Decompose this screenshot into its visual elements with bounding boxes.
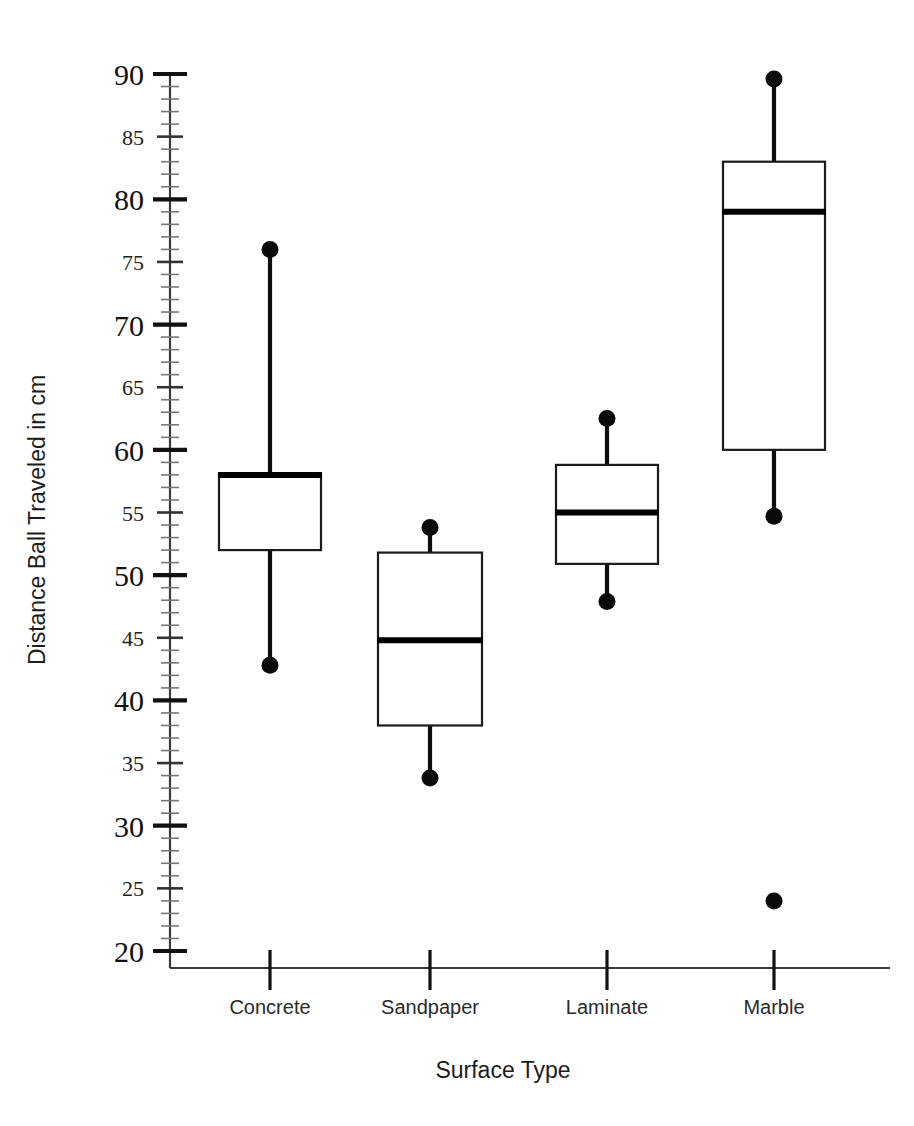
y-tick-label: 45 (122, 626, 144, 651)
box-iqr (219, 475, 321, 550)
chart-canvas: 202530354045505560657075808590 ConcreteS… (0, 0, 914, 1126)
box-plot-marble (722, 71, 826, 910)
y-tick-label: 90 (114, 58, 144, 91)
min-point (599, 593, 616, 610)
x-category-label-concrete: Concrete (229, 996, 310, 1018)
max-point (599, 410, 616, 427)
box-plot-series (218, 71, 826, 910)
max-point (262, 241, 279, 258)
y-tick-label: 80 (114, 183, 144, 216)
max-point (422, 519, 439, 536)
box-iqr (723, 162, 825, 450)
max-point (766, 71, 783, 88)
box-plot-laminate (555, 410, 659, 610)
y-tick-label: 75 (122, 250, 144, 275)
y-tick-label: 50 (114, 559, 144, 592)
x-axis-title: Surface Type (435, 1057, 570, 1083)
y-tick-label: 40 (114, 684, 144, 717)
min-point (766, 508, 783, 525)
box-plot-concrete (218, 241, 322, 674)
y-tick-label: 25 (122, 876, 144, 901)
y-tick-label: 70 (114, 309, 144, 342)
x-axis-category-labels: ConcreteSandpaperLaminateMarble (229, 996, 804, 1018)
y-tick-label: 85 (122, 125, 144, 150)
x-axis-category-ticks (270, 950, 774, 990)
y-tick-label: 60 (114, 434, 144, 467)
min-point (262, 657, 279, 674)
y-tick-label: 20 (114, 935, 144, 968)
y-tick-label: 30 (114, 810, 144, 843)
x-category-label-laminate: Laminate (566, 996, 648, 1018)
min-point (422, 770, 439, 787)
y-tick-label: 65 (122, 375, 144, 400)
x-category-label-marble: Marble (743, 996, 804, 1018)
outlier-point (766, 892, 783, 909)
box-plot-sandpaper (377, 519, 483, 787)
box-plot-chart: 202530354045505560657075808590 ConcreteS… (0, 0, 914, 1126)
y-axis-tick-labels: 202530354045505560657075808590 (114, 58, 144, 968)
y-tick-label: 35 (122, 751, 144, 776)
y-axis-title: Distance Ball Traveled in cm (24, 375, 50, 665)
x-category-label-sandpaper: Sandpaper (381, 996, 479, 1018)
y-tick-label: 55 (122, 501, 144, 526)
